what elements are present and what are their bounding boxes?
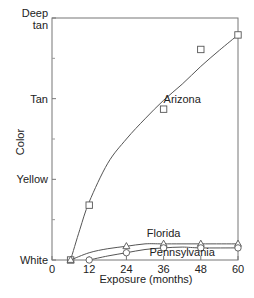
y-tick-label: Tan — [30, 93, 48, 105]
x-tick-label: 12 — [83, 263, 95, 275]
y-tick-label: Yellow — [17, 173, 48, 185]
square-marker — [198, 46, 204, 52]
plot-border — [52, 18, 238, 260]
square-marker — [86, 202, 92, 208]
x-axis-title: Exposure (months) — [100, 273, 193, 285]
square-marker — [160, 106, 166, 112]
exposure-color-chart: WhiteYellowTanDeeptan 01224364860 Arizon… — [0, 0, 254, 298]
pennsylvania-label: Pennsylvania — [149, 246, 215, 258]
square-marker — [235, 32, 241, 38]
circle-marker — [86, 257, 92, 263]
arizona-curve — [71, 35, 238, 260]
florida-label: Florida — [147, 227, 182, 239]
circle-marker — [235, 245, 241, 251]
series-layer: ArizonaFloridaPennsylvania — [67, 32, 241, 263]
x-tick-label: 0 — [49, 263, 55, 275]
y-axis-title: Color — [14, 129, 26, 156]
plot-frame — [52, 18, 238, 260]
x-tick-label: 60 — [232, 263, 244, 275]
circle-marker — [123, 250, 129, 256]
y-tick-label: White — [20, 254, 48, 266]
arizona-label: Arizona — [164, 93, 202, 105]
x-tick-label: 48 — [195, 263, 207, 275]
y-tick-label: Deeptan — [22, 7, 48, 31]
